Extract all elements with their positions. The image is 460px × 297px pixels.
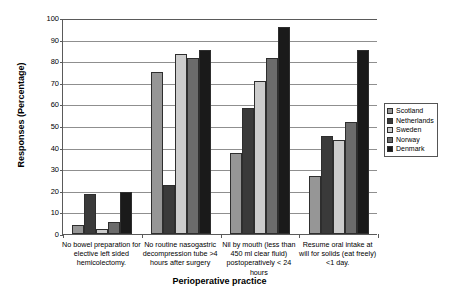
bar	[175, 54, 187, 234]
y-tick-label: 50	[51, 123, 59, 131]
bar	[309, 176, 321, 234]
legend-label: Norway	[396, 136, 420, 144]
bar-group	[142, 19, 221, 234]
bar	[187, 58, 199, 234]
y-tick-label: 40	[51, 145, 59, 153]
plot-area: 0102030405060708090100	[62, 19, 377, 235]
legend-label: Scotland	[396, 107, 423, 115]
legend-swatch-icon	[387, 127, 393, 133]
y-tick-label: 70	[51, 80, 59, 88]
legend-item: Scotland	[387, 107, 434, 116]
x-tick-labels: No bowel preparation for elective left s…	[62, 240, 377, 280]
bar	[199, 50, 211, 234]
x-tick-mark	[221, 234, 222, 238]
bar	[84, 194, 96, 234]
x-tick-mark	[142, 234, 143, 238]
x-tick-label: Resume oral intake at will for solids (e…	[298, 240, 377, 268]
bars-layer	[63, 19, 377, 234]
bar	[254, 81, 266, 234]
bar	[151, 72, 163, 234]
bar-group	[221, 19, 300, 234]
bar-chart: Responses (Percentage) 01020304050607080…	[0, 0, 460, 297]
x-tick-label: Nil by mouth (less than 450 ml clear flu…	[220, 240, 299, 277]
y-tick-label: 80	[51, 58, 59, 66]
legend-label: Denmark	[396, 145, 424, 153]
bar	[120, 192, 132, 234]
x-tick-mark	[63, 234, 64, 238]
legend-item: Netherlands	[387, 116, 434, 125]
legend-label: Sweden	[396, 126, 421, 134]
bar	[163, 185, 175, 234]
legend-swatch-icon	[387, 108, 393, 114]
legend-item: Norway	[387, 135, 434, 144]
legend-swatch-icon	[387, 118, 393, 124]
x-tick-mark	[378, 234, 379, 238]
x-axis-title: Perioperative practice	[62, 276, 377, 286]
legend: ScotlandNetherlandsSwedenNorwayDenmark	[384, 103, 438, 157]
bar	[345, 122, 357, 234]
bar	[108, 222, 120, 234]
legend-swatch-icon	[387, 137, 393, 143]
legend-swatch-icon	[387, 146, 393, 152]
y-tick-label: 20	[51, 188, 59, 196]
legend-item: Sweden	[387, 126, 434, 135]
y-tick-label: 60	[51, 102, 59, 110]
y-tick-label: 90	[51, 37, 59, 45]
bar	[333, 140, 345, 234]
y-tick-label: 30	[51, 166, 59, 174]
bar	[266, 58, 278, 234]
bar	[242, 108, 254, 234]
bar	[278, 27, 290, 234]
y-axis-title: Responses (Percentage)	[16, 30, 26, 200]
bar-group	[299, 19, 378, 234]
bar-group	[63, 19, 142, 234]
legend-label: Netherlands	[396, 117, 434, 125]
bar	[321, 136, 333, 234]
y-tick-label: 0	[55, 231, 59, 239]
x-tick-label: No bowel preparation for elective left s…	[62, 240, 141, 268]
y-tick-label: 100	[46, 15, 59, 23]
legend-item: Denmark	[387, 145, 434, 154]
bar	[96, 229, 108, 234]
x-tick-label: No routine nasogastric decompression tub…	[141, 240, 220, 268]
bar	[357, 50, 369, 234]
y-tick-label: 10	[51, 210, 59, 218]
bar	[230, 153, 242, 234]
bar	[72, 225, 84, 234]
x-tick-mark	[299, 234, 300, 238]
